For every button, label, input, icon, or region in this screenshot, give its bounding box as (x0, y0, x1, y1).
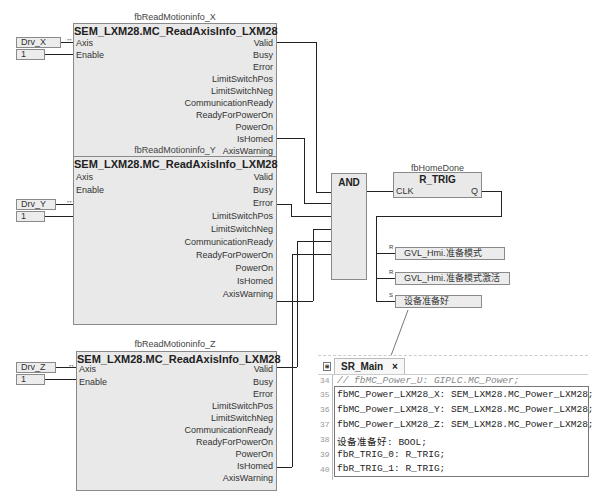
input-pin-axis: Axis (79, 364, 96, 374)
wire (316, 42, 317, 193)
axis-variable[interactable]: Drv_X (16, 37, 61, 48)
in-out-arrow-icon: ↔ (66, 35, 73, 42)
output-pin: IsHomed (237, 461, 273, 471)
output-pin: PowerOn (235, 122, 273, 132)
wire (45, 54, 73, 55)
wire (291, 216, 331, 217)
output-pin: ReadyForPowerOn (196, 437, 273, 447)
input-pin-enable: Enable (79, 377, 107, 387)
wire (482, 191, 501, 192)
output-pin: Busy (253, 377, 273, 387)
code-line[interactable]: fbR_TRIG_1: R_TRIG; (337, 463, 445, 474)
wire (367, 191, 393, 192)
block-type: SEM_LXM28.MC_ReadAxisInfo_LXM28 (77, 353, 276, 365)
line-number: 39 (320, 450, 332, 459)
enable-variable[interactable]: 1 (16, 211, 45, 222)
input-pin-enable: Enable (76, 50, 104, 60)
input-pin-axis: Axis (76, 172, 93, 182)
tab-sr-main[interactable]: ⊞ SR_Main × (334, 358, 405, 375)
wire (56, 367, 76, 368)
gutter-divider (332, 375, 333, 480)
wire (313, 229, 331, 230)
clk-pin: CLK (396, 186, 414, 196)
output-pin: LimitSwitchNeg (211, 413, 273, 423)
coil-mode: S (389, 292, 393, 298)
code-line[interactable]: 设备准备好: BOOL; (337, 434, 427, 448)
coil-variable[interactable]: GVL_Hmi.准备模式激活 (395, 272, 510, 285)
output-pin: PowerOn (235, 449, 273, 459)
wire (376, 216, 502, 217)
tab-label: SR_Main (341, 361, 383, 372)
block-type: SEM_LXM28.MC_ReadAxisInfo_LXM28 (74, 158, 276, 170)
output-pin: Error (253, 62, 273, 72)
output-pin: CommunicationReady (184, 237, 273, 247)
instance-name: fbReadMotioninfo_Z (73, 339, 277, 349)
code-editor-panel[interactable]: ⊞ SR_Main × 34 // fbMC_Power_U: GIPLC.MC… (318, 355, 588, 480)
wire (277, 42, 316, 43)
output-pin: LimitSwitchPos (212, 401, 273, 411)
wire (277, 138, 304, 139)
line-number: 36 (320, 405, 332, 414)
coil-variable[interactable]: GVL_Hmi.准备模式 (395, 247, 505, 260)
code-line[interactable]: fbR_TRIG_0: R_TRIG; (337, 449, 445, 460)
q-pin: Q (471, 186, 478, 196)
wire (376, 278, 395, 279)
wire (292, 254, 293, 467)
output-pin: Error (253, 198, 273, 208)
line-number: 35 (320, 390, 332, 399)
output-pin: ReadyForPowerOn (196, 110, 273, 120)
wire (297, 241, 331, 242)
wire (501, 191, 502, 217)
wire (297, 241, 298, 367)
wire (291, 204, 292, 216)
and-block[interactable]: AND (331, 173, 367, 280)
wire (45, 379, 76, 380)
function-block-body[interactable]: SEM_LXM28.MC_ReadAxisInfo_LXM28 Axis Ena… (73, 23, 277, 162)
coil-mode: R (389, 269, 393, 275)
enable-variable[interactable]: 1 (16, 49, 45, 60)
instance-name: fbReadMotioninfo_Y (73, 145, 277, 155)
wire (376, 301, 395, 302)
document-icon: ⊞ (323, 362, 331, 371)
coil-variable[interactable]: 设备准备好 (395, 295, 482, 308)
enable-variable[interactable]: 1 (16, 374, 45, 385)
wire (376, 216, 377, 301)
output-pin: LimitSwitchPos (212, 211, 273, 221)
close-icon[interactable]: × (392, 361, 398, 372)
function-block-body[interactable]: SEM_LXM28.MC_ReadAxisInfo_LXM28 Axis Ena… (73, 156, 277, 325)
wire (277, 204, 291, 205)
output-pin: Valid (254, 38, 273, 48)
output-pin: CommunicationReady (184, 98, 273, 108)
line-number: 38 (320, 435, 332, 444)
wire (292, 254, 331, 255)
wire (304, 203, 331, 204)
code-line[interactable]: fbMC_Power_LXM28_Y: SEM_LXM28.MC_Power_L… (337, 404, 594, 415)
coil-mode: R (389, 244, 393, 250)
axis-variable[interactable]: Drv_Z (16, 362, 56, 373)
wire (277, 301, 313, 302)
line-number: 40 (320, 465, 332, 474)
axis-variable[interactable]: Drv_Y (16, 199, 56, 210)
output-pin: PowerOn (235, 263, 273, 273)
code-line[interactable]: fbMC_Power_LXM28_Z: SEM_LXM28.MC_Power_L… (337, 419, 594, 430)
input-pin-axis: Axis (76, 38, 93, 48)
output-pin: Busy (253, 50, 273, 60)
wire (61, 42, 73, 43)
wire (45, 216, 73, 217)
output-pin: Valid (254, 364, 273, 374)
output-pin: IsHomed (237, 134, 273, 144)
trig-type: R_TRIG (394, 174, 481, 185)
r-trig-block[interactable]: R_TRIG CLK Q (393, 172, 482, 198)
line-number: 34 (320, 376, 332, 385)
wire (304, 138, 305, 203)
code-line-comment[interactable]: // fbMC_Power_U: GIPLC.MC_Power; (337, 375, 519, 386)
wire (376, 253, 395, 254)
input-pin-enable: Enable (76, 185, 104, 195)
wire (316, 192, 331, 193)
code-line[interactable]: fbMC_Power_LXM28_X: SEM_LXM28.MC_Power_L… (337, 389, 594, 400)
wire (56, 204, 73, 205)
output-pin: Valid (254, 172, 273, 182)
line-number: 37 (320, 420, 332, 429)
function-block-body[interactable]: SEM_LXM28.MC_ReadAxisInfo_LXM28 Axis Ena… (76, 351, 277, 491)
output-pin: Error (253, 389, 273, 399)
